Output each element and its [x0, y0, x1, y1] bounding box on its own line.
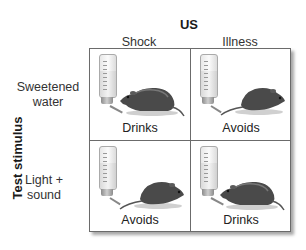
us-axis-title: US	[0, 17, 306, 32]
test-stimulus-label: Test stimulus	[10, 117, 25, 200]
column-header-illness: Illness	[190, 35, 290, 49]
outcome-label: Drinks	[90, 121, 190, 135]
bottle-cap	[101, 97, 113, 104]
outcome-grid: Drinks Avoids Avoids	[89, 48, 291, 232]
bottle-cap	[202, 189, 214, 196]
outcome-label: Avoids	[90, 213, 190, 227]
rat-avoiding-icon	[213, 79, 289, 119]
row-header-line: Sweetened	[12, 80, 84, 95]
cell-light-sound-shock: Avoids	[90, 141, 190, 232]
column-header-shock: Shock	[89, 35, 189, 49]
rat-avoiding-icon	[112, 173, 188, 213]
rat-drinking-icon	[116, 79, 188, 119]
water-bottle-icon	[99, 54, 117, 98]
outcome-label: Avoids	[191, 121, 291, 135]
rat-drinking-icon	[215, 173, 289, 213]
cell-light-sound-illness: Drinks	[191, 141, 291, 232]
cell-sweetened-illness: Avoids	[191, 49, 291, 140]
outcome-label: Drinks	[191, 213, 291, 227]
cell-sweetened-shock: Drinks	[90, 49, 190, 140]
test-stimulus-axis-title: Test stimulus	[4, 98, 30, 218]
